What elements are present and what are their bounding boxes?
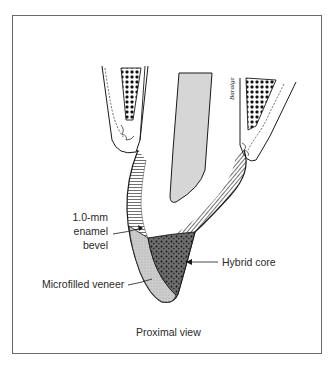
right-alveolar-bone: Baralge [228,77,296,161]
label-microfilled-veneer: Microfilled veneer [42,278,124,291]
tooth-diagram: Baralge [0,0,334,366]
pulp-canal [170,73,212,202]
label-bevel-line1: 1.0-mm [60,211,108,224]
left-alveolar-bone [102,66,148,153]
artist-signature: Baralge [228,77,236,100]
label-bevel-line3: bevel [60,239,108,252]
label-hybrid-core: Hybrid core [222,256,276,269]
figure-caption: Proximal view [136,326,201,339]
label-bevel-line2: enamel [60,225,108,238]
